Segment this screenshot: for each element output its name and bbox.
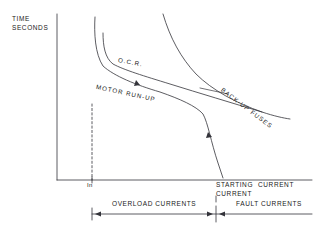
bracket-arrow-left xyxy=(207,212,213,217)
x-axis-title: CURRENT xyxy=(258,181,294,190)
marker-motor-lower xyxy=(206,132,212,138)
starting-current-line2: CURRENT xyxy=(216,190,253,199)
x-tick-label-in: In xyxy=(87,181,93,190)
curve-plot xyxy=(0,0,320,233)
overload-currents-label: OVERLOAD CURRENTS xyxy=(112,200,196,209)
starting-current-line1: STARTING xyxy=(216,181,253,190)
figure-canvas: TIME SECONDS In STARTING CURRENT CURRENT… xyxy=(0,0,320,233)
y-axis-label-line1: TIME xyxy=(12,15,48,24)
curve-motor-run-up xyxy=(95,17,223,178)
fault-currents-label: FAULT CURRENTS xyxy=(236,200,302,209)
y-axis-label-line2: SECONDS xyxy=(12,24,48,33)
marker-motor-upper xyxy=(134,80,140,86)
curve-back-up-fuses xyxy=(163,14,290,119)
bracket-arrow-start xyxy=(95,212,101,217)
bracket-arrow-right xyxy=(219,212,225,217)
starting-current-annotation: STARTING CURRENT xyxy=(216,181,253,198)
y-axis-label: TIME SECONDS xyxy=(12,15,48,32)
